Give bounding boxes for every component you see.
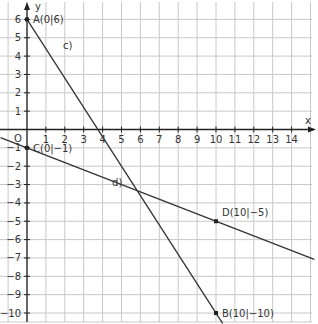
x-axis-arrow-icon — [308, 127, 316, 133]
line-label: c) — [63, 40, 72, 51]
x-tick-label: 6 — [137, 134, 143, 145]
x-tick-label: 13 — [266, 134, 279, 145]
point-label: C(0|−1) — [33, 143, 72, 155]
point-marker-icon — [214, 219, 218, 223]
x-tick-label: 4 — [99, 134, 105, 145]
coordinate-chart: xyO1234567891011121314654321−1−2−3−4−5−6… — [0, 0, 318, 324]
x-tick-label: 14 — [285, 134, 298, 145]
x-tick-label: 7 — [156, 134, 162, 145]
y-tick-label: −2 — [6, 161, 21, 172]
line-c — [26, 18, 223, 323]
labeled-points: A(0|6)B(10|−10)C(0|−1)D(10|−5) — [25, 14, 274, 320]
y-tick-label: −3 — [6, 179, 21, 190]
y-axis-label: y — [35, 1, 41, 12]
point-marker-icon — [25, 146, 29, 150]
y-tick-label: 4 — [15, 51, 21, 62]
y-tick-label: 2 — [15, 87, 21, 98]
y-tick-label: 5 — [15, 32, 21, 43]
point-marker-icon — [25, 17, 29, 21]
y-tick-label: −9 — [6, 289, 21, 300]
y-tick-label: 6 — [15, 14, 21, 25]
x-axis-label: x — [305, 115, 311, 126]
y-axis-arrow-icon — [24, 2, 30, 10]
point-label: B(10|−10) — [222, 308, 274, 320]
line-d — [1, 138, 315, 260]
line-label: d) — [112, 177, 122, 188]
y-tick-label: −7 — [6, 252, 21, 263]
point-label: A(0|6) — [33, 14, 64, 26]
y-tick-label: −5 — [6, 216, 21, 227]
y-tick-label: −10 — [0, 308, 21, 319]
x-tick-label: 10 — [210, 134, 223, 145]
x-tick-label: 12 — [247, 134, 260, 145]
x-tick-label: 8 — [175, 134, 181, 145]
x-tick-label: 11 — [229, 134, 242, 145]
x-tick-label: 5 — [118, 134, 124, 145]
axes: xyO1234567891011121314654321−1−2−3−4−5−6… — [0, 1, 316, 322]
y-tick-label: 3 — [15, 69, 21, 80]
y-tick-label: −6 — [6, 234, 21, 245]
x-tick-label: 9 — [194, 134, 200, 145]
y-tick-label: −8 — [6, 271, 21, 282]
x-tick-label: 3 — [81, 134, 87, 145]
point-label: D(10|−5) — [222, 207, 268, 219]
function-lines: c)d) — [1, 18, 315, 323]
y-tick-label: 1 — [15, 106, 21, 117]
point-marker-icon — [214, 311, 218, 315]
y-tick-label: −4 — [6, 197, 21, 208]
